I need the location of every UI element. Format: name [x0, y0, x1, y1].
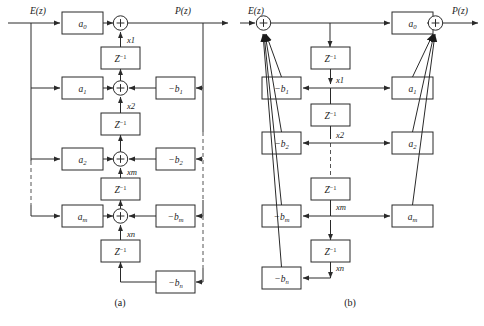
diagram-b: E(z) a0 P(z) Z−1 x1 Z−1 x2	[240, 6, 478, 309]
figure-root: E(z) a0 a1 a2 am	[0, 0, 484, 326]
feedforward-diagonal-am	[413, 34, 436, 205]
output-label-a: P(z)	[174, 6, 191, 17]
state-label-b-x2: x2	[335, 130, 345, 140]
state-label-b-xn: xn	[335, 263, 344, 273]
diagram-canvas: E(z) a0 a1 a2 am	[0, 0, 484, 326]
caption-a: (a)	[114, 297, 125, 309]
state-label-b-xm: xm	[335, 202, 346, 212]
input-label-b: E(z)	[247, 6, 264, 17]
feedback-diagonal-bm	[264, 34, 282, 205]
state-label-a-xm: xm	[126, 167, 137, 177]
state-label-b-x1: x1	[335, 75, 344, 85]
output-label-b: P(z)	[451, 6, 468, 17]
state-label-a-xn: xn	[126, 229, 135, 239]
caption-b: (b)	[344, 297, 356, 309]
input-label-a: E(z)	[29, 6, 46, 17]
wire-bn-to-delay4-a	[121, 262, 157, 282]
diagram-a: E(z) a0 a1 a2 am	[8, 6, 228, 309]
state-label-a-x1: x1	[126, 35, 135, 45]
state-label-a-x2: x2	[126, 101, 136, 111]
